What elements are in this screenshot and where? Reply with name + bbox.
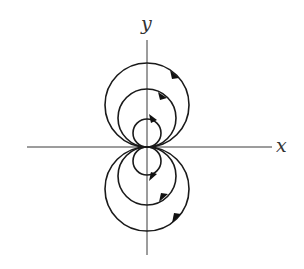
- field-line-diagram: y x: [0, 0, 304, 269]
- arrow-lower-small-icon: [149, 172, 157, 181]
- arrow-lower-large-icon: [172, 213, 181, 223]
- arrow-upper-large-icon: [170, 70, 179, 79]
- y-axis-label: y: [140, 12, 152, 34]
- x-axis-label: x: [276, 134, 287, 156]
